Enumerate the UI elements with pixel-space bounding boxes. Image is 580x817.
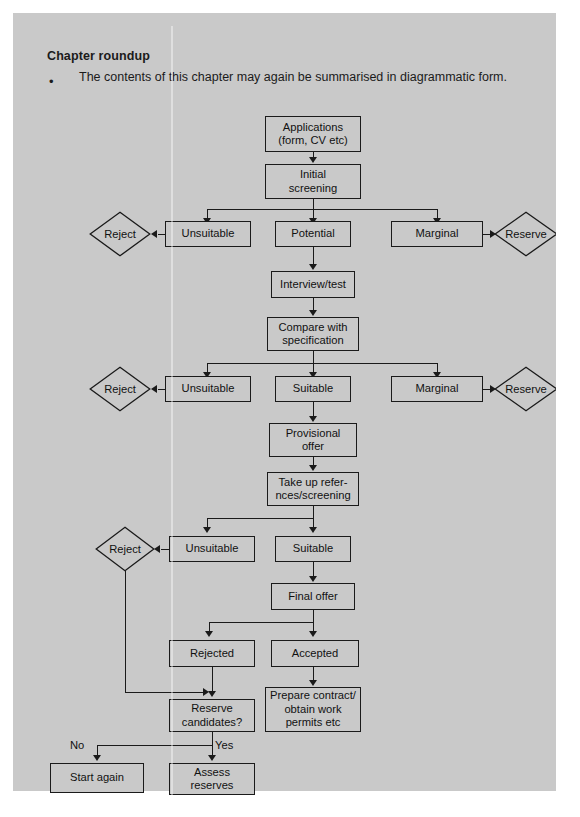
- page-canvas: Chapter roundup • The contents of this c…: [0, 0, 580, 817]
- arrowhead-suitable-2: [309, 527, 317, 533]
- page-right-margin: [556, 0, 580, 817]
- node-provisional-offer: Provisional offer: [269, 423, 357, 457]
- node-suitable-1: Suitable: [275, 376, 351, 402]
- node-interview-test: Interview/test: [271, 271, 355, 298]
- arrowhead-reject-2: [151, 385, 157, 393]
- node-unsuitable-2: Unsuitable: [165, 376, 251, 402]
- arrowhead-initial-screening: [309, 157, 317, 163]
- edge-reserve-candidates-stem: [212, 732, 213, 746]
- edge-compare-bus: [207, 363, 438, 364]
- arrowhead-provisional-offer: [309, 416, 317, 422]
- edge-label-yes: Yes: [215, 739, 233, 751]
- arrowhead-prepare-contract: [309, 680, 317, 686]
- edge-potential-to-interview: [313, 247, 314, 265]
- scan-artifact: [171, 26, 173, 804]
- node-reserve-2-label: Reserve: [505, 383, 547, 395]
- node-reject-1-label: Reject: [104, 228, 136, 240]
- node-unsuitable-1: Unsuitable: [165, 221, 251, 247]
- node-assess-reserves: Assess reserves: [169, 763, 255, 795]
- arrowhead-start-again: [93, 755, 101, 761]
- arrowhead-assess-reserves: [208, 755, 216, 761]
- node-reserve-candidates: Reserve candidates?: [169, 699, 255, 732]
- node-start-again: Start again: [50, 763, 144, 793]
- arrowhead-reject-1: [151, 230, 157, 238]
- node-reject-2-label: Reject: [104, 383, 136, 395]
- edge-initial-bus: [207, 209, 438, 210]
- node-reject-3: Reject: [95, 526, 155, 572]
- node-reject-3-label: Reject: [109, 543, 141, 555]
- content-panel: Chapter roundup • The contents of this c…: [13, 13, 556, 791]
- edge-rejected-to-reserve-candidates: [212, 667, 213, 692]
- edge-reserve-candidates-bus: [97, 745, 212, 746]
- node-unsuitable-3: Unsuitable: [169, 536, 255, 562]
- node-reserve-1: Reserve: [494, 211, 558, 257]
- edge-suitable1-to-provisional: [313, 402, 314, 417]
- node-rejected: Rejected: [169, 640, 255, 667]
- bullet-marker: •: [49, 75, 54, 88]
- arrowhead-unsuitable-3: [203, 527, 211, 533]
- node-accepted: Accepted: [271, 640, 359, 667]
- arrowhead-compare-with-specification: [309, 310, 317, 316]
- arrowhead-final-offer: [309, 576, 317, 582]
- node-reserve-2: Reserve: [494, 366, 558, 412]
- node-potential: Potential: [275, 221, 351, 247]
- edge-suitable2-to-final-offer: [313, 562, 314, 577]
- node-marginal-2: Marginal: [391, 376, 483, 402]
- edge-references-bus: [207, 518, 313, 519]
- arrowhead-take-up-references: [309, 465, 317, 471]
- arrowhead-accepted: [309, 631, 317, 637]
- node-reject-2: Reject: [89, 366, 151, 412]
- edge-reject3-right: [125, 692, 206, 693]
- arrowhead-interview-test: [309, 264, 317, 270]
- edge-label-no: No: [70, 739, 84, 751]
- node-initial-screening: Initial screening: [265, 164, 361, 199]
- node-compare-with-specification: Compare with specification: [267, 317, 359, 351]
- node-take-up-references: Take up refer- nces/screening: [267, 472, 359, 506]
- node-reserve-1-label: Reserve: [505, 228, 547, 240]
- arrowhead-rejected: [205, 631, 213, 637]
- arrowhead-reject-3: [154, 545, 160, 553]
- node-suitable-2: Suitable: [275, 536, 351, 562]
- node-marginal-1: Marginal: [391, 221, 483, 247]
- bullet-text: The contents of this chapter may again b…: [79, 69, 549, 86]
- edge-reject3-down: [125, 571, 126, 693]
- node-prepare-contract: Prepare contract/ obtain work permits et…: [265, 687, 361, 732]
- arrowhead-reserve-candidates: [208, 691, 216, 697]
- page-title: Chapter roundup: [47, 49, 150, 63]
- node-final-offer: Final offer: [271, 583, 355, 610]
- edge-accepted-to-prepare-contract: [313, 667, 314, 681]
- node-applications: Applications (form, CV etc): [265, 116, 361, 152]
- node-reject-1: Reject: [89, 211, 151, 257]
- edge-final-offer-bus: [209, 622, 313, 623]
